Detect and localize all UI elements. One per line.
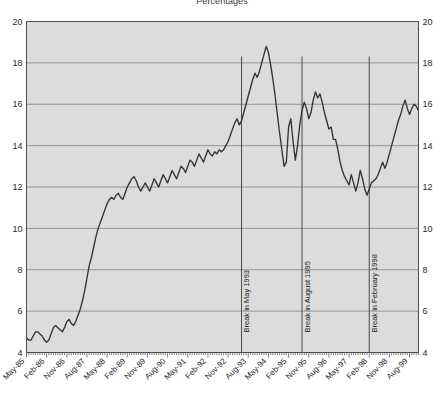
y-axis-tick-label-left: 8 xyxy=(17,265,22,275)
y-axis-tick-label-right: 20 xyxy=(423,17,433,27)
x-axis-tick-label: May-91 xyxy=(162,356,188,382)
y-axis-tick-label-right: 16 xyxy=(423,99,433,109)
y-axis-tick-label-right: 8 xyxy=(423,265,428,275)
y-axis-tick-label-left: 18 xyxy=(12,58,22,68)
x-axis-tick-label: Nov-98 xyxy=(365,356,390,381)
y-axis-tick-label-left: 10 xyxy=(12,224,22,234)
x-axis-tick-label: Nov-95 xyxy=(284,356,309,381)
y-axis-tick-label-right: 18 xyxy=(423,58,433,68)
y-axis-tick-label-left: 4 xyxy=(17,348,22,358)
x-axis-tick-label: May-85 xyxy=(1,356,27,382)
chart-container: Percentages 4466881010121214141616181820… xyxy=(0,0,444,406)
x-axis-tick-label: May-94 xyxy=(243,356,269,382)
x-axis-tick-label: May-97 xyxy=(324,356,350,382)
y-axis-tick-label-right: 12 xyxy=(423,182,433,192)
chart-svg: 446688101012121414161618182020May-85Feb-… xyxy=(0,0,444,406)
x-axis-tick-label: Nov-89 xyxy=(123,356,148,381)
y-axis-tick-label-right: 6 xyxy=(423,306,428,316)
y-axis-tick-label-left: 12 xyxy=(12,182,22,192)
x-axis-tick-label: Aug-99 xyxy=(385,356,410,381)
x-axis-tick-label: May-88 xyxy=(82,356,108,382)
y-axis-tick-label-left: 20 xyxy=(12,17,22,27)
y-axis-tick-label-right: 10 xyxy=(423,224,433,234)
break-annotation-label: Break in February 1998 xyxy=(370,254,379,332)
y-axis-tick-label-right: 14 xyxy=(423,141,433,151)
break-annotation-label: Break in August 1995 xyxy=(303,261,312,332)
x-axis-tick-label: Nov-92 xyxy=(203,356,228,381)
y-axis-tick-label-left: 16 xyxy=(12,99,22,109)
x-axis-tick-label: Nov-86 xyxy=(42,356,67,381)
y-axis-tick-label-left: 6 xyxy=(17,306,22,316)
y-axis-tick-label-left: 14 xyxy=(12,141,22,151)
y-axis-tick-label-right: 4 xyxy=(423,348,428,358)
break-annotation-label: Break in May 1993 xyxy=(242,270,251,333)
